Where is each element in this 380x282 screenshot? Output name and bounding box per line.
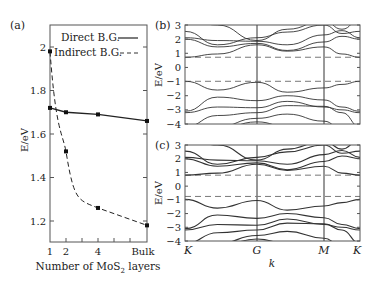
indirect-bandgap-line: [50, 51, 147, 225]
panel-b-ylabel: E/eV: [153, 62, 164, 87]
y-tick-label: 2: [175, 153, 181, 164]
x-tick-label: Bulk: [131, 246, 155, 257]
panel-a-label: (a): [10, 19, 25, 32]
band-curve: [185, 150, 360, 164]
y-tick-label: 0: [175, 181, 181, 192]
panel-c-y-ticks: −4−3−2−10123: [166, 140, 360, 247]
band-curve: [185, 81, 360, 92]
direct-point: [48, 106, 52, 110]
y-tick-label: 0: [175, 62, 181, 73]
y-tick-label: 2: [40, 42, 46, 53]
direct-point: [96, 112, 100, 116]
band-curve: [185, 114, 360, 131]
legend-direct-label: Direct B.G.: [61, 31, 120, 43]
panel-a-series: [48, 49, 149, 227]
x-tick-label: K: [183, 244, 193, 257]
x-tick-label: 2: [63, 246, 69, 257]
y-tick-label: 2: [175, 34, 181, 45]
y-tick-label: −1: [166, 76, 181, 87]
panel-c: (c) −4−3−2−10123 KGMK E/eV k: [153, 139, 362, 269]
indirect-point: [96, 206, 100, 210]
figure: (a) 1.21.41.61.82 124Bulk Direct B.G. In…: [0, 0, 380, 282]
legend-indirect-label: Indirect B.G.: [54, 46, 122, 58]
y-tick-label: −2: [166, 208, 181, 219]
y-tick-label: −1: [166, 194, 181, 205]
indirect-point: [48, 49, 52, 53]
panel-c-label: (c): [155, 139, 170, 152]
panel-c-ylabel: E/eV: [153, 180, 164, 205]
x-tick-label: 1: [47, 246, 53, 257]
y-tick-label: −3: [166, 104, 181, 115]
y-tick-label: 3: [175, 140, 181, 151]
panel-b: (b) −4−3−2−10123 E/eV: [153, 19, 360, 135]
y-tick-label: 3: [175, 20, 181, 31]
x-tick-label: G: [253, 244, 262, 257]
y-tick-label: −3: [166, 222, 181, 233]
panel-b-label: (b): [155, 19, 171, 32]
y-tick-label: 1.2: [30, 216, 46, 227]
y-tick-label: −4: [166, 236, 181, 247]
panel-a-y-ticks: 1.21.41.61.82: [30, 42, 147, 227]
x-tick-label: 4: [95, 246, 101, 257]
panel-c-x-ticks: KGMK: [183, 244, 362, 257]
y-tick-label: 1.6: [30, 129, 46, 140]
y-tick-label: −2: [166, 90, 181, 101]
y-tick-label: 1.4: [30, 172, 46, 183]
panel-c-bands: [185, 140, 360, 252]
y-tick-label: 1: [175, 48, 181, 59]
direct-point: [64, 110, 68, 114]
y-tick-label: −4: [166, 119, 181, 130]
panel-b-y-ticks: −4−3−2−10123: [166, 20, 360, 130]
band-curve: [185, 31, 360, 45]
indirect-point: [64, 149, 68, 153]
panel-a-ylabel: E/eV: [19, 127, 30, 152]
band-curve: [185, 219, 360, 230]
panel-a-x-ticks: 124Bulk: [47, 238, 156, 257]
indirect-point: [145, 223, 149, 227]
x-tick-label: K: [352, 244, 362, 257]
y-tick-label: 1: [175, 167, 181, 178]
direct-point: [145, 119, 149, 123]
legend: Direct B.G. Indirect B.G.: [54, 31, 138, 58]
x-tick-label: M: [317, 244, 330, 257]
panel-c-xlabel: k: [269, 257, 275, 269]
band-curve: [185, 199, 360, 210]
panel-a-xlabel: Number of MoS2 layers: [36, 260, 161, 275]
band-curve: [185, 101, 360, 112]
panel-a: (a) 1.21.41.61.82 124Bulk Direct B.G. In…: [10, 19, 161, 275]
panel-b-bands: [185, 19, 360, 135]
y-tick-label: 1.8: [30, 85, 46, 96]
